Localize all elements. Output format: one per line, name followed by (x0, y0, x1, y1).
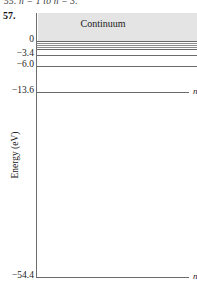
energy-level-line-n-2 (37, 92, 189, 93)
level-label-symbol: n (193, 271, 197, 281)
energy-level-label-n-1: n = 1 (193, 271, 197, 281)
energy-level-line-n-infinity (37, 41, 197, 42)
axis-tick-label-tick-3.4: −3.4 (0, 48, 34, 58)
energy-level-line-n-4 (37, 55, 197, 56)
level-label-symbol: n (193, 86, 197, 96)
continuum-label: Continuum (38, 18, 168, 29)
energy-level-line-n-8 (37, 43, 197, 44)
axis-tick-label-tick-54.4: −54.4 (0, 270, 34, 280)
energy-axis-line (36, 13, 37, 278)
energy-level-line-n-7 (37, 45, 197, 46)
axis-tick-label-tick-13.6: −13.6 (0, 85, 34, 95)
energy-level-line-n-3 (37, 66, 197, 67)
y-axis-title: Energy (eV) (10, 120, 20, 190)
energy-level-label-n-2: n = 2 (193, 86, 197, 96)
axis-tick-label-tick-6.0: −6.0 (0, 59, 34, 69)
axis-tick-label-tick-0: 0 (0, 34, 34, 44)
energy-level-line-n-5 (37, 49, 197, 50)
energy-level-line-n-6 (37, 47, 197, 48)
energy-level-line-n-1 (37, 277, 189, 278)
energy-level-diagram: Continuum Energy (eV) n = ∞n = 5n = 4n =… (0, 0, 197, 293)
